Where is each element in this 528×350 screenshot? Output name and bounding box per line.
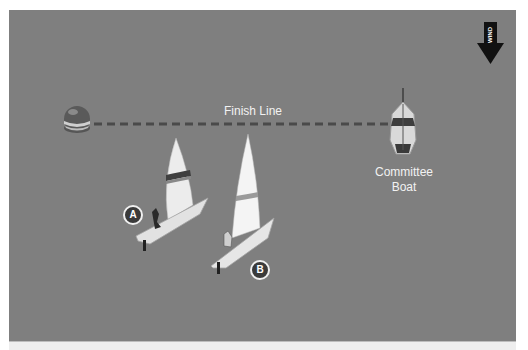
wind-label: WIND bbox=[485, 26, 495, 44]
sailboat-a-icon bbox=[136, 138, 208, 251]
boat-b-badge: B bbox=[250, 260, 270, 280]
sailboat-b-icon bbox=[211, 134, 274, 274]
committee-boat-icon bbox=[390, 88, 416, 154]
buoy-icon bbox=[64, 106, 90, 133]
boat-a-badge: A bbox=[123, 205, 143, 225]
finish-line-label: Finish Line bbox=[218, 104, 288, 118]
committee-boat-label-line2: Boat bbox=[368, 180, 440, 194]
committee-boat-label-line1: Committee bbox=[368, 165, 440, 179]
